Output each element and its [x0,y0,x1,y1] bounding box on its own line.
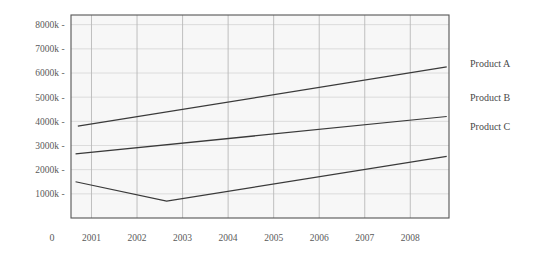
x-tick-label: 2004 [219,233,238,243]
legend-item-product-c: Product C [470,121,511,132]
y-tick-label: 2000k [35,165,59,175]
y-tick-mark: - [62,189,65,199]
y-tick-mark: - [62,93,65,103]
y-tick-label: 3000k [35,141,59,151]
y-tick-label: 8000k [35,20,59,30]
y-tick-label: 4000k [35,117,59,127]
y-tick-mark: - [62,20,65,30]
origin-label: 0 [50,232,55,243]
x-tick-label: 2007 [355,233,374,243]
y-axis-tick-labels: 8000k-7000k-6000k-5000k-4000k-3000k-2000… [35,20,64,199]
y-tick-label: 5000k [35,93,59,103]
x-tick-label: 2006 [310,233,329,243]
chart-svg: 8000k-7000k-6000k-5000k-4000k-3000k-2000… [0,0,544,263]
y-tick-label: 7000k [35,44,59,54]
legend-item-product-a: Product A [470,58,511,69]
x-tick-label: 2002 [128,233,147,243]
y-tick-label: 1000k [35,189,59,199]
x-tick-label: 2008 [401,233,420,243]
legend-item-product-b: Product B [470,92,511,103]
x-tick-label: 2005 [264,233,283,243]
y-tick-label: 6000k [35,68,59,78]
x-tick-label: 2003 [173,233,192,243]
plot-area-background [71,15,449,218]
y-tick-mark: - [62,117,65,127]
x-tick-label: 2001 [82,233,101,243]
legend: Product AProduct BProduct C [470,58,511,132]
y-tick-mark: - [62,44,65,54]
line-chart: 8000k-7000k-6000k-5000k-4000k-3000k-2000… [0,0,544,263]
y-tick-mark: - [62,165,65,175]
y-tick-mark: - [62,141,65,151]
y-tick-mark: - [62,68,65,78]
x-axis-tick-labels: 20012002200320042005200620072008 [82,233,420,243]
